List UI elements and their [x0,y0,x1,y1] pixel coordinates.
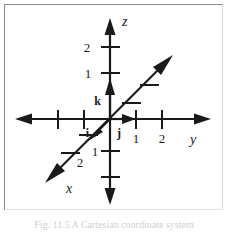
unit-vector-j-label: j [116,126,121,140]
unit-vector-k: k [94,78,115,119]
unit-vector-j-arrowhead [122,114,136,124]
unit-vector-k-label: k [94,94,101,108]
unit-vector-k-arrowhead [105,78,115,95]
z-axis-tick-label-2: 2 [84,40,91,55]
cartesian-axes-diagram: 2 1 1 z 1 2 y [4,4,223,210]
y-axis-positive-arrowhead [194,114,211,125]
z-axis-label: z [121,14,128,29]
z-axis-tick-label-1: 1 [85,66,92,81]
z-axis-negative-arrowhead [105,188,116,205]
figure-page: 2 1 1 z 1 2 y [0,0,228,232]
z-axis: 2 1 1 z [84,14,128,205]
y-axis-tick-label-2: 2 [159,131,166,146]
y-axis-negative-arrowhead [15,114,32,125]
figure-caption: Fig. 11.5 A Cartesian coordinate system [0,219,228,231]
y-axis-tick-label-1: 1 [133,131,140,146]
y-axis-label: y [188,132,197,147]
z-axis-positive-arrowhead [105,18,116,35]
x-axis-label: x [65,181,73,196]
x-axis-tick-label-2: 2 [77,155,84,170]
z-axis-tick-label-neg1: 1 [92,144,99,159]
